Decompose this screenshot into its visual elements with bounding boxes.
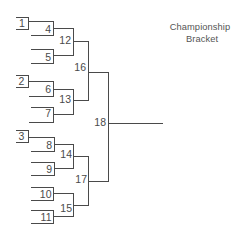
round1-slot-5: 5 [31, 50, 54, 64]
round1-slot-4: 4 [29, 22, 54, 36]
seed-slot-3: 3 [16, 130, 29, 143]
round2-slot-13: 13 [54, 90, 74, 115]
slot-label: 16 [74, 61, 86, 73]
round2-slot-14: 14 [55, 145, 74, 169]
slot-label: 4 [45, 23, 51, 35]
slot-label: 15 [60, 202, 72, 214]
bracket-svg: Championship Bracket 1 2 3 4 5 6 [0, 0, 237, 234]
round1-slot-7: 7 [29, 107, 54, 123]
slot-label: 10 [40, 188, 52, 200]
final-slot-18: 18 [89, 73, 163, 182]
slot-label: 18 [94, 116, 106, 128]
slot-label: 7 [45, 107, 51, 119]
round3-slot-16: 16 [74, 42, 89, 101]
slot-label: 14 [60, 148, 72, 160]
slot-label: 11 [41, 211, 52, 223]
round2-slot-12: 12 [54, 29, 74, 56]
slot-label: 5 [45, 51, 51, 63]
seed-label: 3 [19, 130, 25, 142]
title-line-1: Championship [170, 22, 231, 32]
round1-slot-11: 11 [31, 211, 54, 224]
slot-label: 9 [46, 163, 52, 175]
round1-slot-10: 10 [31, 188, 54, 201]
seed-slot-1: 1 [16, 17, 29, 30]
title-line-2: Bracket [186, 34, 219, 44]
slot-label: 8 [46, 139, 52, 151]
round1-slot-8: 8 [29, 138, 55, 152]
round2-slot-15: 15 [54, 194, 74, 217]
slot-label: 12 [59, 34, 71, 46]
bracket-title: Championship Bracket [170, 22, 231, 44]
round1-slot-6: 6 [29, 82, 54, 97]
slot-label: 13 [59, 93, 71, 105]
seed-slot-2: 2 [16, 75, 29, 88]
round3-slot-17: 17 [74, 157, 89, 206]
seed-label: 1 [19, 17, 25, 29]
seed-label: 2 [19, 75, 25, 87]
round1-slot-9: 9 [31, 163, 55, 176]
slot-label: 6 [45, 83, 51, 95]
slot-label: 17 [75, 173, 87, 185]
championship-bracket-diagram: Championship Bracket 1 2 3 4 5 6 [0, 0, 237, 234]
